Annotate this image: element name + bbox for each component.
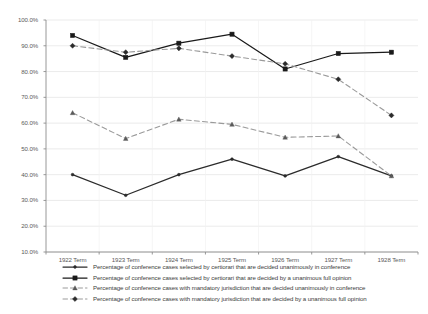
chart-plot-svg xyxy=(0,0,428,260)
data-point-dot xyxy=(71,173,74,176)
data-point-diamond xyxy=(70,43,75,48)
series-mandatory-unanimous-conference xyxy=(70,111,393,178)
legend-item-certiorari-unanimous-full-opinion[interactable]: Percentage of conference cases selected … xyxy=(0,273,428,284)
y-axis-tick-label: 50.0% xyxy=(4,145,38,152)
legend-label: Percentage of conference cases with mand… xyxy=(93,295,367,303)
legend-label: Percentage of conference cases selected … xyxy=(93,274,351,282)
y-axis-tick-label: 40.0% xyxy=(4,171,38,178)
data-point-diamond xyxy=(283,61,288,66)
y-axis-tick-label: 100.0% xyxy=(4,16,38,23)
legend-item-certiorari-unanimous-conference[interactable]: Percentage of conference cases selected … xyxy=(0,262,428,273)
y-axis-tick-label: 10.0% xyxy=(4,248,38,255)
y-axis-tick-label: 70.0% xyxy=(4,93,38,100)
legend-label: Percentage of conference cases selected … xyxy=(93,263,350,271)
data-point-diamond xyxy=(123,50,128,55)
y-axis-tick-label: 90.0% xyxy=(4,42,38,49)
y-axis-tick-label: 60.0% xyxy=(4,119,38,126)
data-point-square xyxy=(336,51,340,55)
chart-container: 100.0%90.0%80.0%70.0%60.0%50.0%40.0%30.0… xyxy=(0,0,428,314)
data-point-square xyxy=(389,50,393,54)
data-point-diamond xyxy=(72,297,77,302)
y-axis-tick-label: 20.0% xyxy=(4,222,38,229)
data-point-diamond xyxy=(229,54,234,59)
legend-marker-square-icon xyxy=(62,273,88,283)
y-axis-tick-label: 30.0% xyxy=(4,196,38,203)
data-point-square xyxy=(70,33,74,37)
chart-legend: Percentage of conference cases selected … xyxy=(0,261,428,314)
series-certiorari-unanimous-full-opinion xyxy=(70,32,393,71)
legend-item-mandatory-unanimous-full-opinion[interactable]: Percentage of conference cases with mand… xyxy=(0,294,428,305)
data-point-triangle xyxy=(70,111,75,115)
legend-marker-diamond-icon xyxy=(62,294,88,304)
data-point-dot xyxy=(231,158,234,161)
legend-item-mandatory-unanimous-conference[interactable]: Percentage of conference cases with mand… xyxy=(0,283,428,294)
data-point-dot xyxy=(337,155,340,158)
series-certiorari-unanimous-conference xyxy=(71,155,393,196)
legend-marker-dot-icon xyxy=(62,262,88,272)
data-point-square xyxy=(177,41,181,45)
data-point-square xyxy=(283,67,287,71)
data-point-dot xyxy=(124,194,127,197)
data-point-dot xyxy=(284,175,287,178)
legend-label: Percentage of conference cases with mand… xyxy=(93,284,365,292)
y-axis-tick-label: 80.0% xyxy=(4,68,38,75)
data-point-square xyxy=(230,32,234,36)
data-point-dot xyxy=(74,266,77,269)
data-point-square xyxy=(124,55,128,59)
plot-area: 100.0%90.0%80.0%70.0%60.0%50.0%40.0%30.0… xyxy=(0,0,428,260)
data-point-diamond xyxy=(176,46,181,51)
series-line-certiorari-unanimous-full-opinion xyxy=(73,34,392,69)
series-line-certiorari-unanimous-conference xyxy=(73,157,392,196)
data-point-dot xyxy=(177,173,180,176)
legend-marker-triangle-icon xyxy=(62,283,88,293)
data-point-square xyxy=(73,276,77,280)
